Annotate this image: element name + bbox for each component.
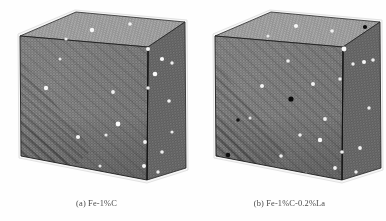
panel-b: (b) Fe-1%C-0.2%La — [193, 0, 386, 198]
cube-render-a — [0, 0, 193, 196]
simulation-cell-b — [193, 0, 386, 196]
cube-side-face-a — [147, 22, 186, 180]
panel-a: (a) Fe-1%C — [0, 0, 193, 198]
simulation-cell-a — [0, 0, 193, 196]
caption-b: (b) Fe-1%C-0.2%La — [193, 198, 386, 209]
cube-render-b — [193, 0, 386, 196]
figure-simulation-cells: (a) Fe-1%C — [0, 0, 386, 221]
cube-side-face-b — [342, 22, 381, 180]
caption-a: (a) Fe-1%C — [0, 198, 193, 209]
